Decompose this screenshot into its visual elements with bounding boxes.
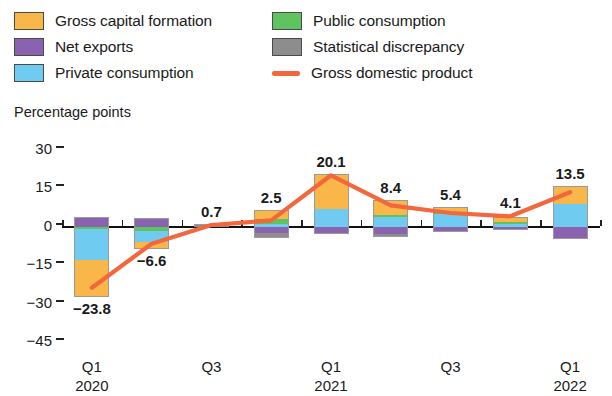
- bar-group: [74, 0, 109, 396]
- bar-segment: [433, 208, 468, 213]
- x-axis-label: Q1: [540, 358, 600, 375]
- bar-group: [194, 0, 229, 396]
- bar-top-edge: [194, 224, 229, 225]
- bar-segment: [194, 225, 229, 227]
- bar-segment: [433, 213, 468, 214]
- bar-top-edge: [553, 186, 588, 187]
- x-axis-label: Q1: [301, 358, 361, 375]
- y-axis-tick-label: 15: [6, 178, 52, 195]
- y-axis-tick-mark: [56, 146, 64, 148]
- x-axis-label: Q3: [421, 358, 481, 375]
- x-axis-tick-mark: [421, 220, 423, 226]
- bar-value-label: 4.1: [475, 194, 545, 211]
- x-axis-tick-mark: [182, 220, 184, 226]
- bar-value-label: 13.5: [535, 165, 605, 182]
- x-axis-label: Q1: [62, 358, 122, 375]
- bar-value-label: −6.6: [117, 252, 187, 269]
- bar-top-edge: [254, 210, 289, 211]
- bar-top-edge: [433, 207, 468, 208]
- bar-segment: [373, 227, 408, 234]
- bar-top-edge: [314, 174, 349, 175]
- bar-group: [553, 0, 588, 396]
- bar-segment: [553, 227, 588, 238]
- y-axis-tick-label: 30: [6, 140, 52, 157]
- bar-segment: [254, 219, 289, 224]
- bar-segment: [314, 209, 349, 227]
- bar-group: [314, 0, 349, 396]
- bar-segment: [74, 260, 109, 296]
- bar-segment: [373, 215, 408, 217]
- x-axis-tick-mark: [600, 220, 602, 226]
- x-axis-year-label: 2021: [301, 377, 361, 394]
- x-axis-tick-mark: [241, 220, 243, 226]
- bar-segment: [134, 231, 169, 243]
- y-axis-tick-mark: [56, 338, 64, 340]
- x-axis-tick-mark: [361, 220, 363, 226]
- bar-bottom-edge: [553, 238, 588, 239]
- bar-segment: [373, 201, 408, 215]
- bar-group: [134, 0, 169, 396]
- bar-value-label: −23.8: [57, 300, 127, 317]
- y-axis-tick-mark: [56, 184, 64, 186]
- bar-segment: [553, 187, 588, 204]
- bar-segment: [254, 211, 289, 220]
- bar-bottom-edge: [134, 248, 169, 249]
- x-axis-tick-mark: [62, 220, 64, 226]
- bar-top-edge: [134, 218, 169, 219]
- bar-segment: [493, 218, 528, 222]
- x-axis-tick-mark: [122, 220, 124, 226]
- y-axis-tick-label: 0: [6, 217, 52, 234]
- bar-segment: [74, 218, 109, 227]
- bar-segment: [134, 219, 169, 227]
- bar-bottom-edge: [254, 237, 289, 238]
- bar-bottom-edge: [74, 296, 109, 297]
- bar-top-edge: [373, 200, 408, 201]
- bar-segment: [493, 222, 528, 224]
- bar-segment: [433, 214, 468, 227]
- bar-value-label: 20.1: [296, 153, 366, 170]
- x-axis-tick-mark: [480, 220, 482, 226]
- x-axis-label: Q3: [181, 358, 241, 375]
- y-axis-tick-label: −15: [6, 255, 52, 272]
- bar-top-edge: [74, 217, 109, 218]
- plot-area: 30150−15−30−45−23.8−6.60.72.520.18.45.44…: [0, 0, 612, 396]
- x-axis-tick-mark: [540, 220, 542, 226]
- x-axis-tick-mark: [301, 220, 303, 226]
- x-axis-year-label: 2020: [62, 377, 122, 394]
- bar-bottom-edge: [373, 236, 408, 237]
- bar-segment: [553, 204, 588, 227]
- bar-group: [373, 0, 408, 396]
- bar-segment: [314, 175, 349, 208]
- y-axis-tick-label: −45: [6, 332, 52, 349]
- bar-segment: [373, 217, 408, 227]
- x-axis-year-label: 2022: [540, 377, 600, 394]
- bar-top-edge: [493, 217, 528, 218]
- bar-bottom-edge: [493, 229, 528, 230]
- bar-bottom-edge: [433, 231, 468, 232]
- y-axis-tick-mark: [56, 261, 64, 263]
- y-axis-tick-label: −30: [6, 294, 52, 311]
- bar-value-label: 2.5: [236, 189, 306, 206]
- bar-segment: [74, 229, 109, 260]
- chart-root: Gross capital formation Net exports Priv…: [0, 0, 612, 396]
- bar-bottom-edge: [314, 233, 349, 234]
